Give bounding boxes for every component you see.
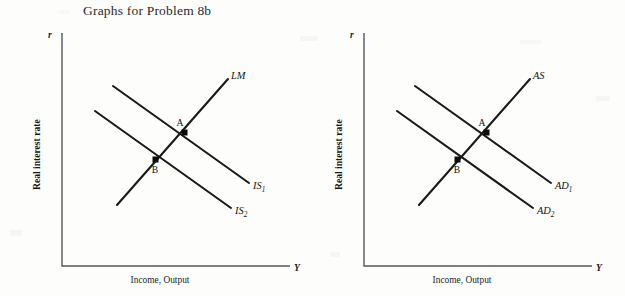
left-point-a-label: A [177,117,184,128]
right-y-axis-label: Real interest rate [333,119,344,190]
curve-is1-label: IS1 [252,180,265,194]
left-x-axis-variable: Y [294,262,301,273]
curve-is2 [95,111,231,208]
right-axes [364,33,592,266]
curve-lm [117,79,228,205]
ad-as-panel: r Y Real interest rate Income, Output AS… [333,29,603,285]
right-y-axis-variable: r [350,29,354,40]
curve-ad2-base: AD [536,205,551,216]
curve-ad1-label: AD1 [554,180,572,194]
curve-is1 [113,86,249,183]
curve-is2-subscript: 2 [244,211,248,219]
left-point-b-marker [153,157,159,163]
curve-as-label: AS [532,70,545,81]
right-point-a-label: A [479,117,486,128]
curve-ad2-subscript: 2 [551,211,555,219]
curve-is2-label: IS2 [234,205,248,219]
is-lm-panel: r Y Real interest rate Income, Output LM… [31,29,301,285]
right-x-axis-variable: Y [596,262,603,273]
right-point-b-label: B [454,164,460,175]
curve-ad2 [397,111,533,208]
left-y-axis-label: Real interest rate [31,119,42,190]
curve-ad1 [415,86,551,183]
curve-as [419,79,530,205]
page-title: Graphs for Problem 8b [83,3,211,18]
left-y-axis-variable: r [48,29,52,40]
left-point-a-marker [182,130,188,136]
curve-lm-label: LM [230,70,247,81]
curve-ad1-subscript: 1 [569,186,573,194]
curve-ad1-base: AD [554,180,569,191]
right-point-b-marker [455,157,461,163]
curve-ad2-label: AD2 [536,205,555,219]
left-point-b-label: B [152,164,158,175]
curve-is1-subscript: 1 [262,186,266,194]
right-x-axis-label: Income, Output [433,275,492,285]
left-x-axis-label: Income, Output [131,275,190,285]
graphs-figure: Graphs for Problem 8b r Y Real interest … [0,0,625,296]
left-axes [62,33,290,266]
right-point-a-marker [484,130,490,136]
